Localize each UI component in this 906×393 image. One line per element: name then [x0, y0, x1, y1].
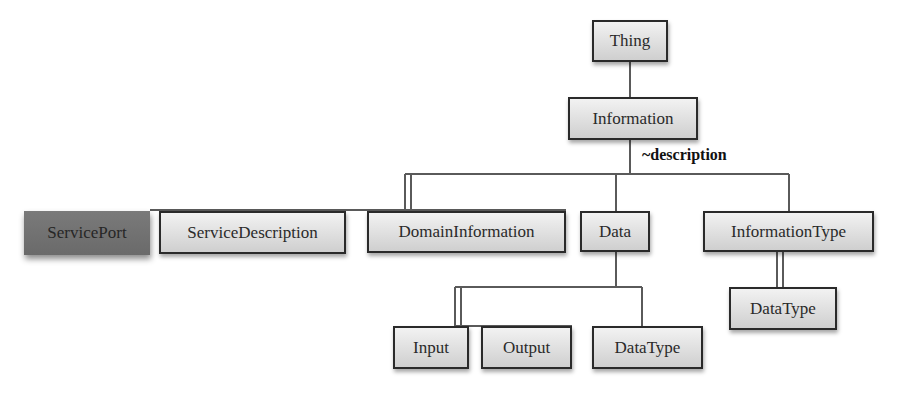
edge-label-description: ~description [642, 146, 727, 164]
node-information: Information [568, 97, 698, 140]
node-service-description: ServiceDescription [159, 211, 346, 254]
node-data-type-bottom: DataType [592, 326, 703, 369]
node-information-type: InformationType [703, 211, 874, 252]
node-input: Input [393, 326, 469, 369]
node-data-type-right: DataType [729, 287, 837, 330]
node-thing: Thing [592, 20, 668, 62]
node-data: Data [580, 211, 650, 252]
node-service-port: ServicePort [24, 211, 150, 255]
node-domain-information: DomainInformation [367, 211, 566, 253]
node-output: Output [481, 326, 572, 369]
